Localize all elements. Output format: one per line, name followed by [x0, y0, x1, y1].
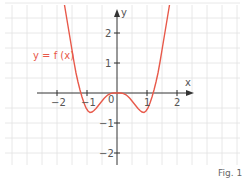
y-tick-label: −1 — [99, 118, 114, 129]
x-tick-label: −1 — [81, 97, 96, 108]
y-tick-label: 2 — [105, 28, 111, 39]
y-axis-arrow-icon — [114, 9, 120, 17]
x-tick-label: 1 — [144, 97, 150, 108]
grid — [5, 3, 240, 165]
origin-label: 0 — [108, 94, 114, 105]
y-tick-label: 1 — [105, 58, 111, 69]
x-tick-label: 2 — [174, 97, 180, 108]
y-tick-label: −2 — [99, 148, 114, 159]
function-plot: −2 −1 1 2 2 1 −1 −2 0 x y y = f (x) Fig.… — [0, 0, 243, 180]
figure-label: Fig. 1 — [218, 168, 242, 178]
x-axis-arrow-icon — [186, 90, 194, 96]
x-tick-label: −2 — [51, 97, 66, 108]
x-axis-label: x — [185, 77, 191, 88]
function-label: y = f (x) — [33, 50, 74, 61]
axes — [37, 14, 188, 165]
y-axis-label: y — [121, 7, 127, 18]
